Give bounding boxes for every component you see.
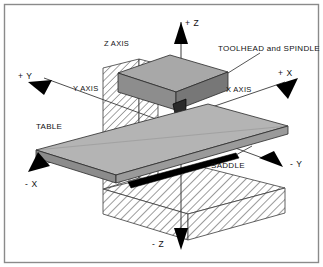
diagram-frame: Z AXIS Y AXIS X AXIS + Z - Z + Y - Y + X…: [0, 0, 323, 267]
y-axis-label: Y AXIS: [73, 84, 98, 93]
saddle-label: SADDLE: [211, 161, 245, 170]
minus-x-label: - X: [25, 179, 38, 189]
table-label: TABLE: [36, 122, 62, 131]
minus-y-label: - Y: [290, 159, 303, 169]
plus-z-label: + Z: [185, 18, 199, 28]
toolhead-label: TOOLHEAD and SPINDLE: [218, 44, 320, 53]
plus-x-label: + X: [278, 68, 293, 78]
z-axis-label: Z AXIS: [104, 39, 129, 48]
cnc-axis-diagram: Z AXIS Y AXIS X AXIS + Z - Z + Y - Y + X…: [0, 0, 323, 267]
minus-z-label: - Z: [152, 239, 164, 249]
plus-y-label: + Y: [18, 71, 33, 81]
x-axis-label: X AXIS: [226, 85, 252, 94]
